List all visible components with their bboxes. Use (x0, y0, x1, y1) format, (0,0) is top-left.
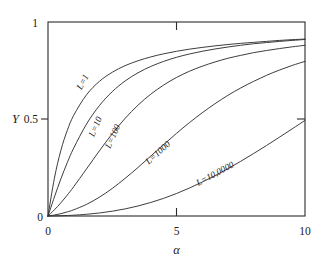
xtick-label-0: 0 (45, 225, 51, 237)
curve-label-L-100000: L=10,0000 (194, 159, 236, 188)
curve-label-L-10: L=10 (86, 115, 104, 139)
curve-labels: L=1 L=10 L=100 L=1000 L=10,0000 (74, 72, 236, 188)
line-chart: 1 0.5 0 0 5 10 Y α L=1 L=10 L=100 L=1000… (0, 0, 328, 270)
ytick-label-1: 1 (32, 17, 38, 29)
figure-container: 1 0.5 0 0 5 10 Y α L=1 L=10 L=100 L=1000… (0, 0, 328, 270)
xtick-label-10: 10 (299, 225, 311, 237)
curve-L-1 (48, 39, 305, 216)
data-curves (48, 39, 305, 216)
curve-label-L-100: L=100 (103, 122, 123, 150)
curve-L-100 (48, 45, 305, 216)
ytick-label-0: 0 (37, 211, 43, 223)
curve-label-L-1: L=1 (74, 72, 91, 92)
xtick-label-5: 5 (174, 225, 180, 237)
curve-L-10 (48, 39, 305, 216)
x-axis-label: α (173, 243, 180, 257)
y-axis-label: Y (12, 112, 21, 126)
ytick-label-0point5: 0.5 (24, 113, 39, 125)
curve-label-L-1000: L=1000 (143, 139, 173, 167)
